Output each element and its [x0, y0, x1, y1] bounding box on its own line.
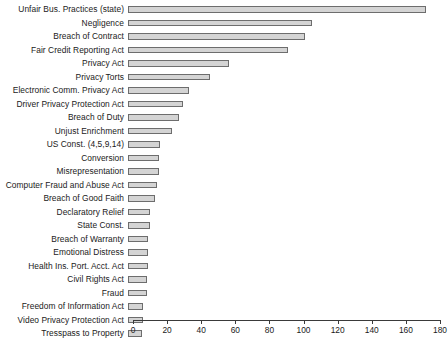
chart-row: Breach of Warranty [0, 233, 448, 247]
bar [128, 60, 229, 67]
x-axis-tick [269, 320, 270, 324]
category-label: Driver Privacy Protection Act [0, 100, 128, 109]
bar-track [128, 3, 448, 17]
chart-row: US Const. (4,5,9,14) [0, 138, 448, 152]
category-label: Misrepresentation [0, 167, 128, 176]
bar-track [128, 260, 448, 274]
category-label: State Const. [0, 221, 128, 230]
bar-track [128, 246, 448, 260]
category-label: Electronic Comm. Privacy Act [0, 86, 128, 95]
chart-row: Breach of Contract [0, 30, 448, 44]
chart-row: Breach of Duty [0, 111, 448, 125]
bar-track [128, 30, 448, 44]
x-axis-tick-label: 40 [188, 325, 214, 335]
bar [128, 209, 150, 216]
x-axis-tick-label: 20 [154, 325, 180, 335]
category-label: Video Privacy Protection Act [0, 316, 128, 325]
horizontal-bar-chart: Unfair Bus. Practices (state)NegligenceB… [0, 0, 448, 343]
bar-track [128, 71, 448, 85]
bar [128, 6, 426, 13]
chart-plot-area: Unfair Bus. Practices (state)NegligenceB… [0, 3, 448, 341]
bar [128, 236, 148, 243]
bar [128, 101, 183, 108]
chart-row: Misrepresentation [0, 165, 448, 179]
category-label: Privacy Act [0, 59, 128, 68]
bar [128, 20, 312, 27]
bar-track [128, 152, 448, 166]
bar [128, 303, 143, 310]
bar [128, 141, 160, 148]
bar-track [128, 192, 448, 206]
bar-track [128, 138, 448, 152]
chart-row: Health Ins. Port. Acct. Act [0, 260, 448, 274]
x-axis-tick-label: 160 [393, 325, 419, 335]
bar [128, 87, 189, 94]
category-label: Emotional Distress [0, 248, 128, 257]
bar-track [128, 233, 448, 247]
category-label: Civil Rights Act [0, 275, 128, 284]
chart-row: Fair Credit Reporting Act [0, 44, 448, 58]
bar [128, 263, 148, 270]
category-label: Negligence [0, 19, 128, 28]
x-axis-tick [201, 320, 202, 324]
x-axis-tick [372, 320, 373, 324]
x-axis-tick-label: 0 [120, 325, 146, 335]
bar-track [128, 17, 448, 31]
bar [128, 33, 305, 40]
chart-row: Emotional Distress [0, 246, 448, 260]
bar-track [128, 287, 448, 301]
chart-row: Privacy Act [0, 57, 448, 71]
bar-track [128, 98, 448, 112]
chart-row: Fraud [0, 287, 448, 301]
x-axis-tick [167, 320, 168, 324]
bar [128, 249, 148, 256]
chart-row: Freedom of Information Act [0, 300, 448, 314]
category-label: Unjust Enrichment [0, 127, 128, 136]
chart-row: Negligence [0, 17, 448, 31]
category-label: Privacy Torts [0, 73, 128, 82]
bar [128, 182, 157, 189]
bar [128, 155, 159, 162]
chart-row: Conversion [0, 152, 448, 166]
category-label: Tresspass to Property [0, 329, 128, 338]
x-axis-tick [406, 320, 407, 324]
x-axis-tick-label: 140 [359, 325, 385, 335]
bar-track [128, 273, 448, 287]
chart-row: Computer Fraud and Abuse Act [0, 179, 448, 193]
bar-track [128, 44, 448, 58]
bar-track [128, 111, 448, 125]
bar [128, 222, 150, 229]
x-axis-tick-label: 120 [325, 325, 351, 335]
bar [128, 114, 179, 121]
category-label: US Const. (4,5,9,14) [0, 140, 128, 149]
bar-track [128, 125, 448, 139]
category-label: Declaratory Relief [0, 208, 128, 217]
x-axis-tick [338, 320, 339, 324]
x-axis-tick [235, 320, 236, 324]
x-axis-tick [440, 320, 441, 324]
chart-row: State Const. [0, 219, 448, 233]
bar-track [128, 165, 448, 179]
category-label: Freedom of Information Act [0, 302, 128, 311]
category-label: Unfair Bus. Practices (state) [0, 5, 128, 14]
category-label: Fraud [0, 289, 128, 298]
bar-track [128, 300, 448, 314]
bar-track [128, 179, 448, 193]
bar-track [128, 206, 448, 220]
bar-track [128, 57, 448, 71]
bar [128, 290, 147, 297]
chart-row: Declaratory Relief [0, 206, 448, 220]
x-axis-tick-label: 180 [427, 325, 448, 335]
chart-row: Electronic Comm. Privacy Act [0, 84, 448, 98]
x-axis-tick [304, 320, 305, 324]
category-label: Breach of Warranty [0, 235, 128, 244]
bar [128, 128, 172, 135]
bar [128, 168, 159, 175]
chart-row: Unfair Bus. Practices (state) [0, 3, 448, 17]
bar [128, 74, 210, 81]
chart-row: Unjust Enrichment [0, 125, 448, 139]
x-axis-tick-label: 60 [222, 325, 248, 335]
chart-row: Privacy Torts [0, 71, 448, 85]
category-label: Breach of Good Faith [0, 194, 128, 203]
chart-row: Breach of Good Faith [0, 192, 448, 206]
